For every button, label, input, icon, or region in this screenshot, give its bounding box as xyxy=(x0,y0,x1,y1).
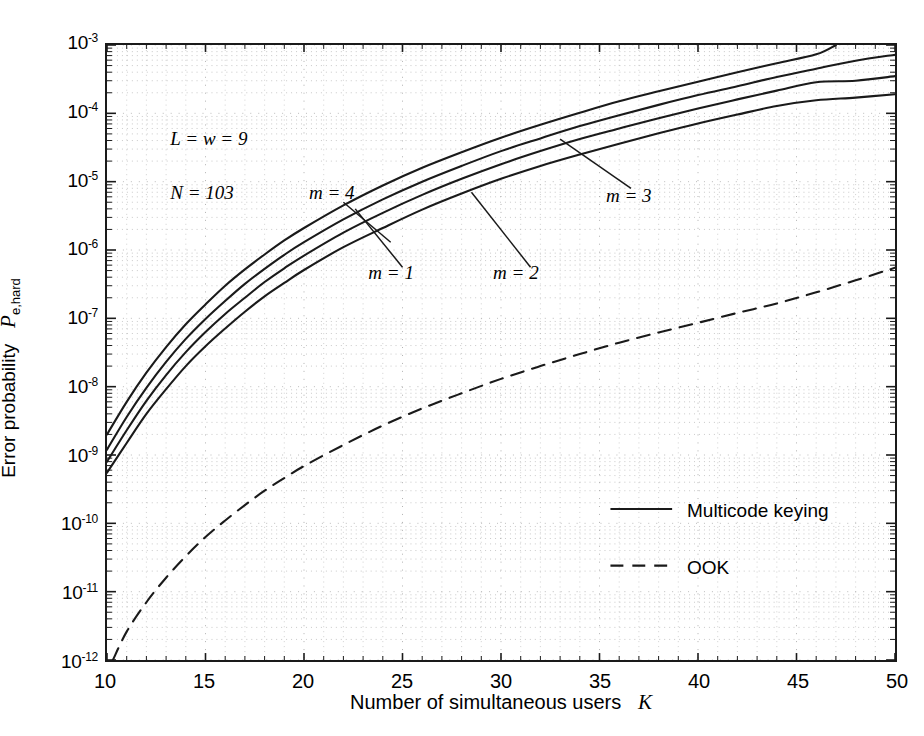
x-axis-title-symbol: K xyxy=(638,690,652,714)
series-m-3 xyxy=(107,55,895,450)
annotation-label-m1: m = 1 xyxy=(368,262,414,284)
leader-m2 xyxy=(471,192,530,267)
annotation-param-L-w: L = w = 9 xyxy=(170,128,247,150)
y-tick-label--7: 10-7 xyxy=(40,306,98,329)
leader-m3 xyxy=(560,139,631,188)
y-tick-label--4: 10-4 xyxy=(40,100,98,123)
legend-label-ook: OOK xyxy=(687,557,729,579)
figure: Error probability Pe,hard 10-310-410-510… xyxy=(0,0,924,736)
annotation-label-m3: m = 3 xyxy=(606,185,652,207)
legend-label-multicode-keying: Multicode keying xyxy=(687,500,829,522)
y-axis-title-subscript: e,hard xyxy=(8,278,23,315)
annotation-param-N: N = 103 xyxy=(170,182,234,204)
annotation-label-m2: m = 2 xyxy=(493,262,539,284)
x-axis-title-text: Number of simultaneous users xyxy=(350,691,621,713)
x-axis-title: Number of simultaneous users K xyxy=(105,690,897,715)
annotation-label-m4: m = 4 xyxy=(309,182,355,204)
y-tick-label--6: 10-6 xyxy=(40,237,98,260)
y-tick-label--10: 10-10 xyxy=(40,512,98,535)
y-tick-label--3: 10-3 xyxy=(40,31,98,54)
y-tick-label--8: 10-8 xyxy=(40,375,98,398)
plot-area: L = w = 9 N = 103 m = 4 m = 3 m = 2 m = … xyxy=(105,43,897,662)
series-m-4 xyxy=(107,45,836,434)
series-ook xyxy=(113,268,895,660)
y-axis-title: Error probability Pe,hard xyxy=(0,228,23,528)
y-axis-title-text: Error probability xyxy=(0,344,19,478)
y-axis-title-symbol: P xyxy=(0,315,20,328)
y-tick-label--9: 10-9 xyxy=(40,444,98,467)
y-tick-label--11: 10-11 xyxy=(40,581,98,604)
y-tick-label--5: 10-5 xyxy=(40,169,98,192)
